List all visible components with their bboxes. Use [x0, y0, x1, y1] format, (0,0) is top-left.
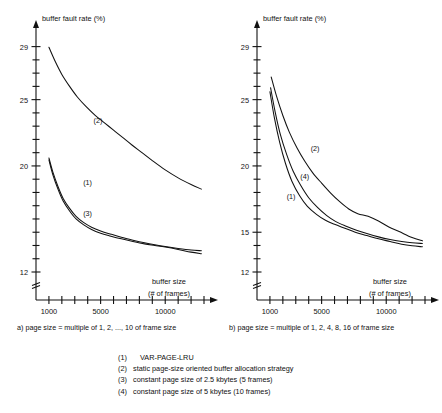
- chart-b-y-tick-label: 29: [241, 43, 249, 52]
- chart-b-y-tick-label: 20: [241, 162, 249, 171]
- chart-a-curves: (2)(1)(3): [49, 47, 202, 253]
- chart-b-canvas: 29252015121000500010000 (2)(4)(1) buffer…: [221, 0, 442, 345]
- chart-a-y-tick-label: 12: [20, 268, 28, 277]
- chart-b-x-tick-label: 10000: [376, 307, 397, 316]
- legend-item: (2) static page-size oriented buffer all…: [118, 363, 418, 374]
- legend-item: (4) constant page size of 5 kbytes (10 f…: [118, 386, 418, 397]
- chart-a-x-axis-title: buffer size: [152, 277, 186, 286]
- chart-b-x-tick-label: 5000: [313, 307, 329, 316]
- legend-text: constant page size of 5 kbytes (10 frame…: [133, 386, 271, 397]
- figure-legend: (1) VAR-PAGE-LRU (2) static page-size or…: [118, 352, 418, 397]
- chart-panels: 292520121000500010000 (2)(1)(3) buffer f…: [0, 0, 442, 345]
- legend-text: static page-size oriented buffer allocat…: [133, 363, 294, 374]
- chart-a-caption: a) page size = multiple of 1, 2, ..., 10…: [17, 323, 176, 332]
- chart-b-x-axis-subtitle: (# of frames): [369, 289, 411, 298]
- chart-a-axes: 292520121000500010000: [20, 20, 218, 316]
- chart-a-series-label: (3): [83, 209, 92, 218]
- chart-b-x-axis-title: buffer size: [373, 277, 407, 286]
- legend-item: (1) VAR-PAGE-LRU: [118, 352, 418, 363]
- chart-panel-b: 29252015121000500010000 (2)(4)(1) buffer…: [221, 0, 442, 345]
- chart-b-curves: (2)(4)(1): [270, 77, 423, 247]
- chart-a-canvas: 292520121000500010000 (2)(1)(3) buffer f…: [0, 0, 221, 345]
- chart-a-series-label: (1): [83, 178, 92, 187]
- legend-key: (3): [118, 374, 133, 385]
- chart-a-series-2: [49, 47, 202, 189]
- chart-a-series-1: [49, 158, 202, 251]
- chart-a-x-tick-label: 1000: [41, 307, 57, 316]
- chart-b-y-axis-title: buffer fault rate (%): [263, 14, 326, 23]
- figure: 292520121000500010000 (2)(1)(3) buffer f…: [0, 0, 442, 413]
- chart-b-series-label: (2): [311, 144, 320, 153]
- chart-a-series-label: (2): [94, 116, 103, 125]
- chart-b-y-tick-label: 15: [241, 228, 249, 237]
- legend-key: (2): [118, 363, 133, 374]
- chart-a-y-tick-label: 29: [20, 43, 28, 52]
- chart-a-x-tick-label: 10000: [155, 307, 176, 316]
- chart-b-series-2: [271, 77, 422, 241]
- chart-b-axes: 29252015121000500010000: [241, 20, 439, 316]
- chart-b-y-tick-label: 12: [241, 268, 249, 277]
- chart-b-caption: b) page size = multiple of 1, 2, 4, 8, 1…: [229, 323, 394, 332]
- chart-b-series-label: (1): [287, 192, 296, 201]
- chart-a-series-3: [49, 160, 202, 254]
- chart-b-series-label: (4): [300, 172, 309, 181]
- chart-a-y-axis-title: buffer fault rate (%): [42, 14, 105, 23]
- chart-b-y-tick-label: 25: [241, 96, 249, 105]
- legend-text: VAR-PAGE-LRU: [133, 352, 194, 363]
- chart-a-x-tick-label: 5000: [92, 307, 108, 316]
- chart-a-y-tick-label: 20: [20, 162, 28, 171]
- legend-text: constant page size of 2.5 kbytes (5 fram…: [133, 374, 273, 385]
- chart-b-x-tick-label: 1000: [262, 307, 278, 316]
- legend-key: (4): [118, 386, 133, 397]
- legend-key: (1): [118, 352, 133, 363]
- legend-item: (3) constant page size of 2.5 kbytes (5 …: [118, 374, 418, 385]
- chart-a-x-axis-subtitle: (# of frames): [148, 289, 190, 298]
- chart-panel-a: 292520121000500010000 (2)(1)(3) buffer f…: [0, 0, 221, 345]
- chart-b-series-4: [271, 88, 423, 244]
- chart-a-y-tick-label: 25: [20, 96, 28, 105]
